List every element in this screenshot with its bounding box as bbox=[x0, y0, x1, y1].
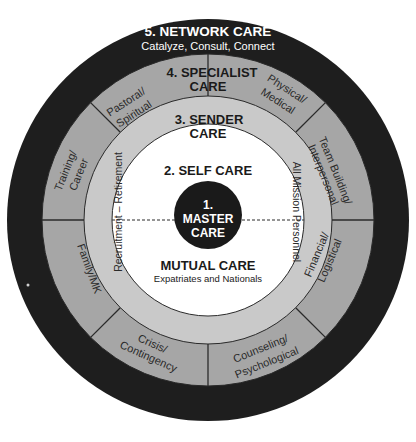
master-care-title: MASTER bbox=[183, 212, 234, 226]
speck-dot bbox=[27, 284, 30, 287]
sender-care-title: 3. SENDER bbox=[175, 112, 244, 127]
sender-care-title-line2: CARE bbox=[190, 126, 227, 141]
mutual-care-subtitle: Expatriates and Nationals bbox=[154, 273, 263, 284]
network-care-subtitle: Catalyze, Consult, Connect bbox=[141, 40, 274, 52]
self-care-title: 2. SELF CARE bbox=[164, 163, 252, 178]
network-care-title: 5. NETWORK CARE bbox=[145, 24, 272, 39]
member-care-diagram: 5. NETWORK CARE Catalyze, Consult, Conne… bbox=[0, 0, 416, 442]
master-care-number: 1. bbox=[203, 198, 213, 212]
sender-right-label: All Mission Personnel bbox=[291, 162, 303, 262]
master-care-title-line2: CARE bbox=[191, 226, 225, 240]
mutual-care-title: MUTUAL CARE bbox=[160, 258, 255, 273]
specialist-care-title: 4. SPECIALIST bbox=[166, 65, 257, 80]
specialist-care-title-line2: CARE bbox=[190, 79, 227, 94]
sender-left-label: Recruitment – Retirement bbox=[112, 152, 124, 272]
